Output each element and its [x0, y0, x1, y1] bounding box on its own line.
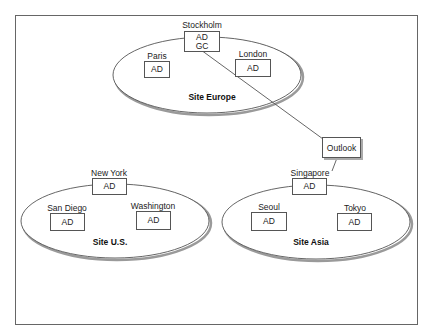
- role-ad: AD: [349, 218, 361, 227]
- role-ad: AD: [151, 65, 163, 74]
- server-box-new-york[interactable]: AD: [92, 178, 127, 195]
- location-label-singapore: Singapore: [291, 168, 330, 178]
- role-ad: AD: [247, 64, 259, 73]
- site-label-us: Site U.S.: [93, 237, 127, 247]
- server-box-seoul[interactable]: AD: [251, 212, 287, 231]
- link-outlook-singapore: [332, 158, 337, 171]
- location-label-seoul: Seoul: [258, 202, 280, 212]
- server-box-singapore[interactable]: AD: [292, 178, 327, 195]
- location-label-london: London: [239, 49, 267, 59]
- location-label-san-diego: San Diego: [47, 203, 87, 213]
- server-box-washington[interactable]: AD: [136, 211, 171, 230]
- location-label-paris: Paris: [147, 51, 166, 61]
- site-label-asia: Site Asia: [293, 237, 329, 247]
- role-ad: AD: [148, 216, 160, 225]
- location-label-new-york: New York: [91, 168, 127, 178]
- role-gc: GC: [196, 42, 209, 51]
- site-label-europe: Site Europe: [188, 92, 235, 102]
- server-box-san-diego[interactable]: AD: [50, 213, 85, 231]
- role-ad: AD: [263, 217, 275, 226]
- outlook-box[interactable]: Outlook: [322, 137, 361, 158]
- location-label-tokyo: Tokyo: [344, 203, 366, 213]
- server-box-tokyo[interactable]: AD: [337, 213, 372, 231]
- role-ad: AD: [104, 182, 116, 191]
- server-box-paris[interactable]: AD: [144, 61, 170, 78]
- location-label-washington: Washington: [131, 201, 176, 211]
- location-label-stockholm: Stockholm: [182, 20, 222, 30]
- server-box-stockholm[interactable]: AD GC: [184, 31, 220, 52]
- role-ad: AD: [62, 218, 74, 227]
- role-ad: AD: [304, 182, 316, 191]
- server-box-london[interactable]: AD: [235, 59, 271, 77]
